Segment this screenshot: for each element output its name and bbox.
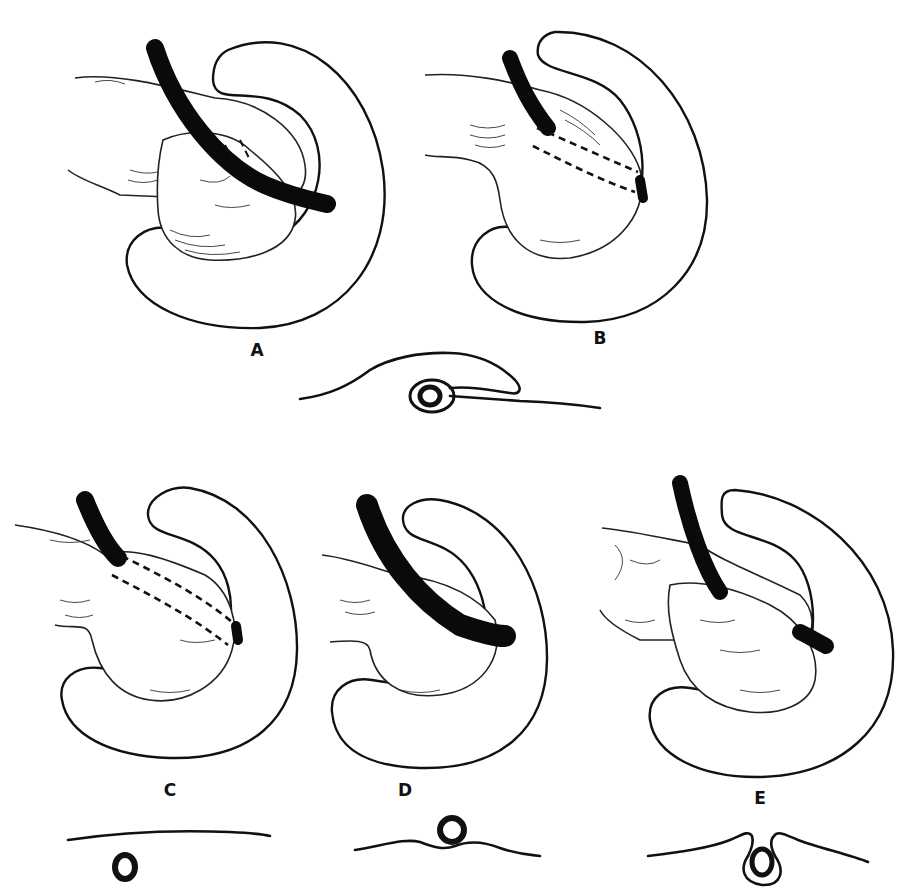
panel-a (68, 42, 385, 328)
duct-b-exit (640, 180, 643, 198)
panel-label-a: A (250, 340, 263, 360)
cross-section-e (648, 833, 868, 885)
cross-section-d (355, 818, 540, 856)
panel-b (425, 32, 707, 322)
panel-c (15, 488, 297, 759)
anatomical-figure: A B C D E (0, 0, 915, 895)
surface-e-right (771, 833, 868, 862)
duct-lumen-ab (420, 387, 440, 405)
surface-e-left (648, 833, 753, 856)
panel-label-e: E (754, 788, 766, 808)
cross-section-ab (300, 353, 600, 412)
panel-label-c: C (164, 780, 176, 800)
duct-lumen-d (440, 818, 464, 842)
duct-lumen-e (752, 849, 772, 875)
panel-d (322, 499, 547, 768)
duct-lumen-c (115, 855, 135, 879)
surface-base-ab (450, 396, 600, 408)
surface-c (68, 831, 270, 840)
panel-label-d: D (398, 780, 412, 800)
panel-label-b: B (594, 328, 607, 348)
tissue-mass-c (15, 525, 235, 701)
cross-section-c (68, 831, 270, 879)
invagination-e (744, 856, 781, 885)
panel-e (600, 483, 893, 777)
figure-drawing (0, 0, 915, 895)
duct-c-exit (236, 626, 238, 640)
